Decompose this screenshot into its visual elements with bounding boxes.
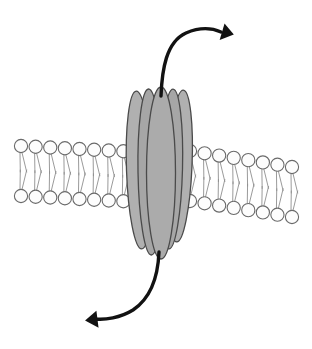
lipid-head-lower xyxy=(271,208,284,221)
membrane-channel-figure xyxy=(0,0,312,349)
lipid-head-upper xyxy=(88,143,101,156)
lipid-head-lower xyxy=(88,193,101,206)
lipid-head-lower xyxy=(58,192,71,205)
lipid-head-lower xyxy=(44,191,57,204)
lipid-head-upper xyxy=(73,142,86,155)
protein-helix-helix-front xyxy=(147,87,176,259)
lipid-head-upper xyxy=(285,160,298,173)
lipid-head-upper xyxy=(198,147,211,160)
lipid-head-lower xyxy=(242,204,255,217)
lipid-head-lower xyxy=(213,199,226,212)
lipid-head-lower xyxy=(29,190,42,203)
lipid-head-lower xyxy=(73,192,86,205)
lipid-head-upper xyxy=(14,139,27,152)
lipid-head-lower xyxy=(102,194,115,207)
lipid-head-upper xyxy=(58,142,71,155)
lipid-head-lower xyxy=(285,210,298,223)
diagram-canvas xyxy=(0,0,312,349)
lipid-head-upper xyxy=(271,158,284,171)
lipid-head-lower xyxy=(256,206,269,219)
lipid-head-upper xyxy=(44,141,57,154)
lipid-head-upper xyxy=(242,154,255,167)
lipid-head-lower xyxy=(14,189,27,202)
lipid-head-upper xyxy=(227,151,240,164)
lipid-head-lower xyxy=(198,197,211,210)
lipid-head-lower xyxy=(227,201,240,214)
lipid-head-upper xyxy=(213,149,226,162)
lipid-head-upper xyxy=(256,156,269,169)
lipid-head-upper xyxy=(29,140,42,153)
lipid-head-upper xyxy=(102,144,115,157)
